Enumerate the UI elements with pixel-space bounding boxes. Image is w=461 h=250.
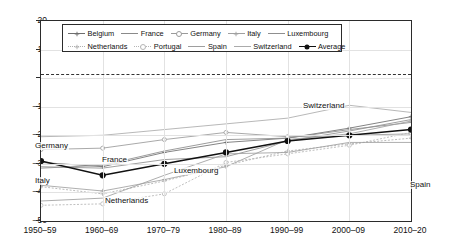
legend-label: Spain xyxy=(208,43,227,51)
legend-item-portugal[interactable]: Portugal xyxy=(134,43,181,51)
legend-item-france[interactable]: France xyxy=(121,30,164,38)
y-axis-tick-mark xyxy=(36,134,40,135)
series-label-italy: Italy xyxy=(34,177,51,185)
x-axis-tick-label: 2010–20 xyxy=(393,226,426,235)
legend-marker-icon xyxy=(121,30,138,38)
series-label-france: France xyxy=(101,156,128,164)
legend-item-belgium[interactable]: Belgium xyxy=(68,30,114,38)
legend-item-switzerland[interactable]: Switzerland xyxy=(234,43,292,51)
legend-marker-icon xyxy=(171,30,188,38)
legend-item-spain[interactable]: Spain xyxy=(188,43,226,51)
y-axis-tick-mark xyxy=(36,163,40,164)
legend-row: BelgiumFranceGermanyItalyLuxembourg xyxy=(68,28,336,39)
legend-marker-icon xyxy=(228,30,245,38)
legend-marker-icon xyxy=(234,43,251,51)
legend-marker-icon xyxy=(68,30,85,38)
legend-label: France xyxy=(141,30,164,38)
legend-label: Germany xyxy=(190,30,220,38)
series-label-germany: Germany xyxy=(34,142,69,150)
legend-label: Italy xyxy=(247,30,261,38)
y-axis-tick-mark xyxy=(36,191,40,192)
chart-container: 20100−10−20−30−40−50 GermanyFranceItalyL… xyxy=(0,0,461,250)
legend-label: Average xyxy=(318,43,345,51)
y-axis-tick-mark xyxy=(36,49,40,50)
y-axis-tick-mark xyxy=(36,220,40,221)
x-axis-tick-label: 1960–69 xyxy=(85,226,118,235)
legend-marker-icon xyxy=(134,43,151,51)
legend-item-netherlands[interactable]: Netherlands xyxy=(68,43,127,51)
x-axis-tick-label: 1970–79 xyxy=(147,226,180,235)
x-axis-tick-label: 2000–09 xyxy=(332,226,365,235)
legend-marker-icon xyxy=(68,43,85,51)
y-axis-tick-mark xyxy=(36,106,40,107)
zero-reference-line xyxy=(41,74,411,75)
legend-marker-icon xyxy=(188,43,205,51)
legend-label: Switzerland xyxy=(253,43,291,51)
series-label-switzerland: Switzerland xyxy=(302,102,345,110)
series-label-netherlands: Netherlands xyxy=(104,197,149,205)
series-label-luxembourg: Luxembourg xyxy=(173,167,219,175)
legend-item-germany[interactable]: Germany xyxy=(171,30,221,38)
series-label-spain: Spain xyxy=(409,181,431,189)
legend-marker-icon xyxy=(299,43,316,51)
legend-row: NetherlandsPortugalSpainSwitzerlandAvera… xyxy=(68,41,336,52)
legend-label: Portugal xyxy=(154,43,182,51)
legend-label: Belgium xyxy=(88,30,115,38)
legend-item-italy[interactable]: Italy xyxy=(228,30,261,38)
gridline-vertical xyxy=(349,21,350,221)
legend-item-average[interactable]: Average xyxy=(299,43,346,51)
legend-marker-icon xyxy=(268,30,285,38)
legend-item-luxembourg[interactable]: Luxembourg xyxy=(268,30,329,38)
y-axis-tick-mark xyxy=(36,20,40,21)
legend-label: Luxembourg xyxy=(287,30,328,38)
legend-label: Netherlands xyxy=(88,43,128,51)
chart-legend: BelgiumFranceGermanyItalyLuxembourgNethe… xyxy=(62,24,342,52)
y-axis-tick-mark xyxy=(36,77,40,78)
x-axis-tick-label: 1950–59 xyxy=(23,226,56,235)
x-axis-tick-label: 1990–99 xyxy=(270,226,303,235)
x-axis-tick-label: 1980–89 xyxy=(208,226,241,235)
